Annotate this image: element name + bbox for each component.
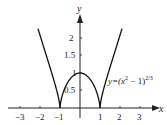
x-tick-label: −3	[15, 112, 25, 122]
y-tick-label: 1.5	[64, 50, 76, 60]
x-tick-label: −2	[35, 112, 45, 122]
y-axis-arrow-icon	[77, 14, 83, 23]
x-tick-label: 2	[117, 112, 122, 122]
x-tick-label: 3	[137, 112, 142, 122]
x-tick-label: −1	[54, 112, 64, 122]
x-axis-label: x	[158, 103, 164, 114]
y-tick-label: 2	[69, 33, 74, 43]
x-tick-label: 1	[98, 112, 103, 122]
function-plot: −3 −2 −1 1 2 3 0.5 1 1.5 2 x y y=(x2 − 1…	[0, 0, 167, 125]
y-axis-label: y	[76, 3, 82, 14]
equation-label: y=(x2 − 1)2/3	[107, 75, 153, 86]
